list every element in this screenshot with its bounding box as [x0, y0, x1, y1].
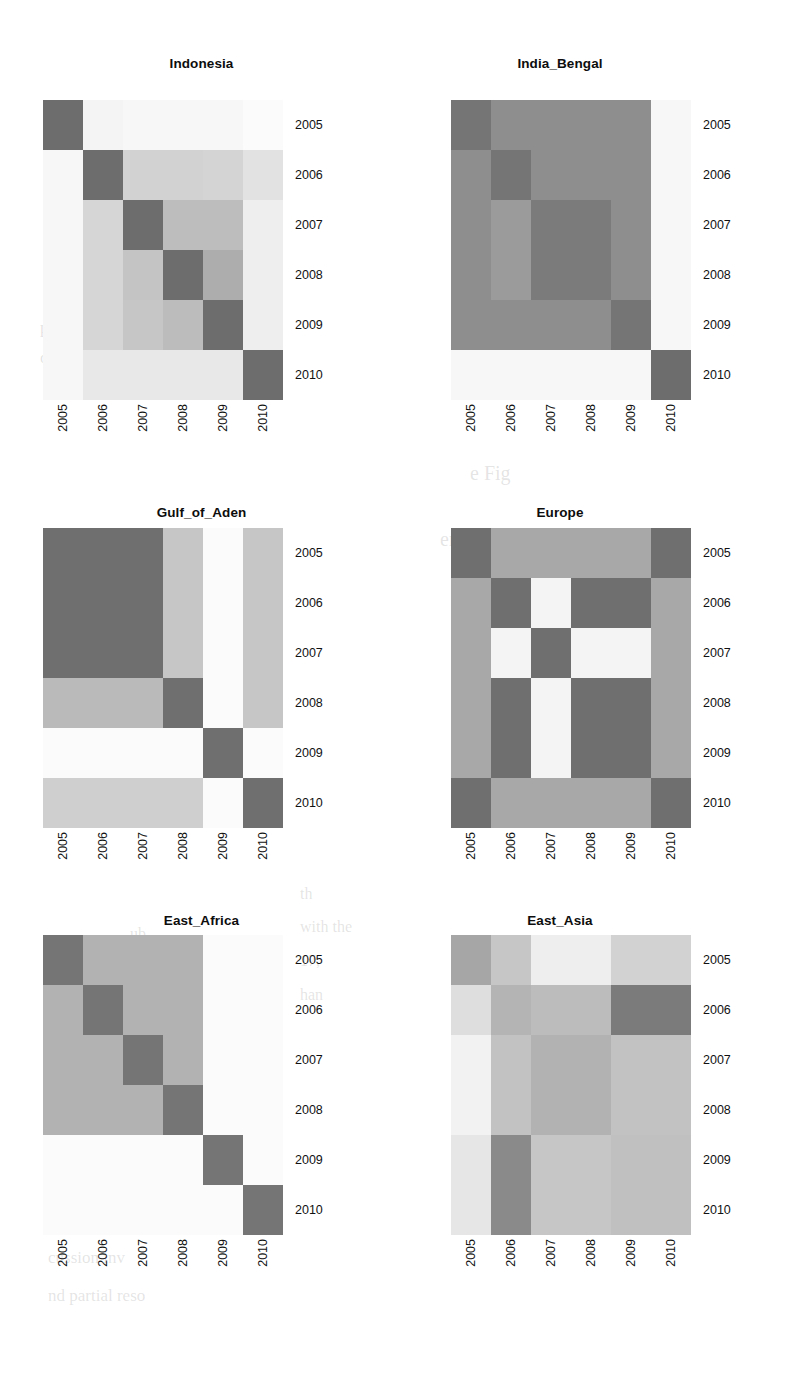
heatmap-cell	[491, 350, 531, 400]
heatmap-cell	[123, 350, 163, 400]
x-axis-tick-label: 2007	[545, 1239, 558, 1267]
heatmap-cell	[123, 1035, 163, 1085]
heatmap-cell	[611, 1085, 651, 1135]
x-axis-tick-label: 2008	[585, 404, 598, 432]
y-axis-tick-label: 2008	[691, 250, 801, 300]
x-axis-tick-label: 2008	[177, 832, 190, 860]
heatmap-cell	[163, 300, 203, 350]
heatmap-cell	[451, 1135, 491, 1185]
heatmap-cell	[451, 100, 491, 150]
heatmap-cell	[43, 250, 83, 300]
x-axis-tick-label-slot: 2010	[651, 1239, 691, 1291]
heatmap-cell	[451, 250, 491, 300]
y-axis-tick-label: 2006	[283, 985, 393, 1035]
heatmap-cell	[243, 678, 283, 728]
heatmap-cell	[243, 578, 283, 628]
x-axis-tick-label: 2005	[57, 832, 70, 860]
heatmap-cell	[531, 778, 571, 828]
x-axis-tick-label: 2009	[625, 1239, 638, 1267]
heatmap-matrix	[451, 935, 691, 1235]
heatmap-cell	[491, 778, 531, 828]
heatmap-cell	[651, 1135, 691, 1185]
heatmap-cell	[491, 1135, 531, 1185]
y-axis-tick-label: 2009	[283, 728, 393, 778]
x-axis-tick-label: 2007	[545, 832, 558, 860]
y-axis-tick-label: 2007	[691, 1035, 801, 1085]
heatmap-cell	[611, 150, 651, 200]
heatmap-cell	[123, 1185, 163, 1235]
heatmap-cell	[163, 935, 203, 985]
heatmap-cell	[83, 528, 123, 578]
heatmap-cell	[203, 935, 243, 985]
x-axis-tick-label-slot: 2008	[571, 404, 611, 456]
heatmap-cell	[43, 528, 83, 578]
heatmap-cell	[451, 350, 491, 400]
heatmap-cell	[203, 578, 243, 628]
heatmap-cell	[243, 200, 283, 250]
heatmap-cell	[83, 100, 123, 150]
heatmap-cell	[203, 250, 243, 300]
y-axis-tick-label: 2005	[283, 100, 393, 150]
heatmap-cell	[163, 628, 203, 678]
y-axis-tick-label: 2006	[691, 578, 801, 628]
heatmap-cell	[163, 728, 203, 778]
heatmap-cell	[83, 1185, 123, 1235]
y-axis-tick-label: 2009	[691, 1135, 801, 1185]
heatmap-cell	[203, 200, 243, 250]
panel-east-asia: East_Asia 200520062007200820092010 20052…	[403, 875, 807, 1382]
heatmap-cell	[243, 935, 283, 985]
x-axis-tick-label-slot: 2010	[243, 1239, 283, 1291]
x-axis-tick-label: 2005	[57, 404, 70, 432]
heatmap-cell	[123, 578, 163, 628]
heatmap-cell	[163, 200, 203, 250]
heatmap-cell	[43, 985, 83, 1035]
heatmap-cell	[123, 628, 163, 678]
y-axis-tick-labels: 200520062007200820092010	[691, 100, 801, 400]
heatmap-cell	[451, 985, 491, 1035]
heatmap-cell	[451, 678, 491, 728]
x-axis-tick-label-slot: 2009	[203, 1239, 243, 1291]
x-axis-tick-label: 2008	[585, 1239, 598, 1267]
y-axis-tick-label: 2007	[283, 628, 393, 678]
y-axis-tick-label: 2008	[283, 678, 393, 728]
plot-area	[43, 935, 283, 1235]
heatmap-cell	[491, 528, 531, 578]
heatmap-cell	[611, 100, 651, 150]
heatmap-cell	[651, 1085, 691, 1135]
heatmap-matrix	[451, 528, 691, 828]
heatmap-cell	[43, 728, 83, 778]
x-axis-tick-label-slot: 2006	[491, 404, 531, 456]
x-axis-tick-label: 2010	[257, 404, 270, 432]
heatmap-cell	[163, 100, 203, 150]
heatmap-cell	[491, 300, 531, 350]
y-axis-tick-label: 2006	[283, 150, 393, 200]
heatmap-cell	[83, 150, 123, 200]
heatmap-cell	[531, 1085, 571, 1135]
y-axis-tick-labels: 200520062007200820092010	[691, 528, 801, 828]
plot-area	[451, 100, 691, 400]
heatmap-cell	[243, 350, 283, 400]
heatmap-cell	[163, 578, 203, 628]
heatmap-cell	[451, 1185, 491, 1235]
heatmap-cell	[611, 1035, 651, 1085]
x-axis-tick-label: 2007	[137, 404, 150, 432]
x-axis-tick-label-slot: 2006	[83, 1239, 123, 1291]
heatmap-cell	[611, 200, 651, 250]
heatmap-cell	[43, 1085, 83, 1135]
heatmap-cell	[531, 528, 571, 578]
heatmap-cell	[651, 628, 691, 678]
heatmap-cell	[83, 1085, 123, 1135]
heatmap-cell	[43, 1185, 83, 1235]
x-axis-tick-label-slot: 2009	[611, 404, 651, 456]
heatmap-cell	[243, 1085, 283, 1135]
heatmap-cell	[243, 778, 283, 828]
heatmap-cell	[243, 628, 283, 678]
x-axis-tick-label-slot: 2007	[531, 1239, 571, 1291]
heatmap-cell	[451, 200, 491, 250]
heatmap-cell	[571, 1035, 611, 1085]
x-axis-tick-label-slot: 2008	[163, 1239, 203, 1291]
x-axis-tick-labels: 200520062007200820092010	[451, 404, 691, 456]
panel-gulf-of-aden: Gulf_of_Aden 200520062007200820092010 20…	[0, 460, 403, 875]
heatmap-cell	[203, 150, 243, 200]
heatmap-cell	[611, 728, 651, 778]
